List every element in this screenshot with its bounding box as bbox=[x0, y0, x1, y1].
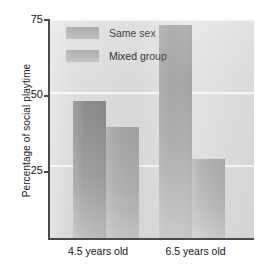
legend-label-mixed-group: Mixed group bbox=[109, 50, 167, 62]
bar-sheen bbox=[106, 127, 139, 238]
gridline-75 bbox=[49, 19, 254, 21]
plot-area: Same sex Mixed group bbox=[49, 19, 254, 238]
y-tick-label-25: 25 bbox=[3, 164, 43, 176]
bar-sheen bbox=[192, 159, 225, 238]
bar-same-sex-4-5 bbox=[73, 101, 106, 238]
legend-item-same-sex: Same sex bbox=[66, 25, 167, 41]
y-axis-line bbox=[48, 19, 50, 239]
y-tick-label-75: 75 bbox=[3, 13, 43, 25]
legend: Same sex Mixed group bbox=[66, 25, 167, 71]
bar-sheen bbox=[73, 101, 106, 238]
x-axis-label-4-5-years: 4.5 years old bbox=[53, 245, 143, 257]
legend-item-mixed-group: Mixed group bbox=[66, 48, 167, 64]
bar-mixed-group-6-5 bbox=[192, 159, 225, 238]
gridline-50 bbox=[49, 92, 254, 94]
y-axis-title: Percentage of social playtime bbox=[21, 36, 32, 226]
legend-label-same-sex: Same sex bbox=[109, 27, 156, 39]
y-tick-label-50: 50 bbox=[3, 88, 43, 100]
legend-swatch-icon-same-sex bbox=[66, 27, 99, 39]
bar-chart-figure: Percentage of social playtime 75 50 25 bbox=[0, 0, 258, 268]
bar-mixed-group-4-5 bbox=[106, 127, 139, 238]
x-axis-line bbox=[48, 238, 254, 240]
legend-swatch-icon-mixed-group bbox=[66, 50, 99, 62]
x-axis-label-6-5-years: 6.5 years old bbox=[148, 245, 243, 257]
